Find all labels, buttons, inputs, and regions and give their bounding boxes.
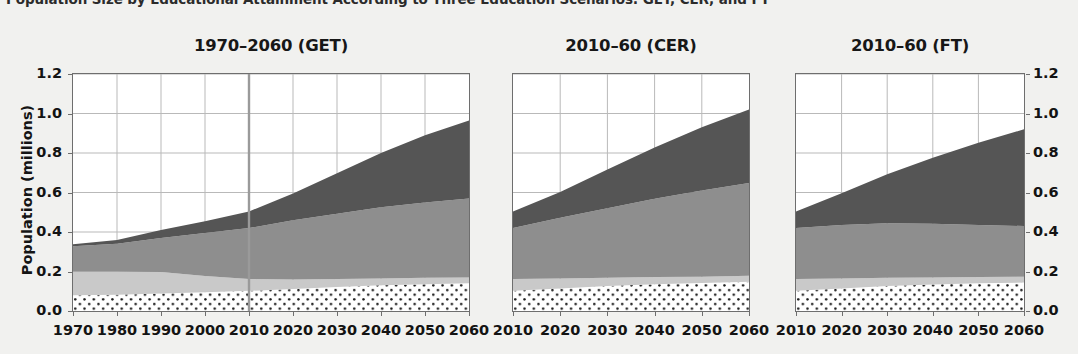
y-tickmark-right	[1026, 232, 1030, 233]
plot-panel-ft	[795, 73, 1025, 312]
x-tickmark	[293, 312, 294, 316]
x-tick-ft-2010: 2010	[774, 322, 818, 338]
y-tick-right-0.6: 0.6	[1033, 184, 1075, 200]
x-tick-ft-2020: 2020	[820, 322, 864, 338]
x-tick-get-2060: 2060	[447, 322, 491, 338]
y-tick-left-0.4: 0.4	[20, 223, 62, 239]
x-tick-ft-2060: 2060	[1002, 322, 1046, 338]
plot-panel-get	[72, 73, 470, 312]
x-tickmark	[702, 312, 703, 316]
y-tickmark-left	[68, 114, 72, 115]
x-tickmark	[749, 312, 750, 316]
x-tickmark	[205, 312, 206, 316]
y-tick-right-0.8: 0.8	[1033, 144, 1075, 160]
y-tickmark-right	[1026, 153, 1030, 154]
x-tick-ft-2030: 2030	[865, 322, 909, 338]
y-tickmark-left	[68, 193, 72, 194]
y-tickmark-left	[68, 74, 72, 75]
y-tickmark-left	[68, 311, 72, 312]
x-tickmark	[655, 312, 656, 316]
plot-panel-cer	[512, 73, 750, 312]
x-tick-ft-2050: 2050	[956, 322, 1000, 338]
y-tick-left-0.0: 0.0	[20, 302, 62, 318]
figure-title: Population Size by Educational Attainmen…	[6, 0, 770, 7]
y-tick-left-0.2: 0.2	[20, 263, 62, 279]
x-tickmark	[117, 312, 118, 316]
x-tickmark	[337, 312, 338, 316]
x-tickmark	[425, 312, 426, 316]
x-tick-get-2030: 2030	[315, 322, 359, 338]
x-tickmark	[842, 312, 843, 316]
x-tick-get-2010: 2010	[227, 322, 271, 338]
x-tick-get-1980: 1980	[95, 322, 139, 338]
y-tick-left-0.8: 0.8	[20, 144, 62, 160]
x-tick-cer-2040: 2040	[633, 322, 677, 338]
x-tick-get-1990: 1990	[139, 322, 183, 338]
plot-area-cer	[513, 74, 749, 311]
x-tick-cer-2010: 2010	[491, 322, 535, 338]
x-tick-cer-2050: 2050	[680, 322, 724, 338]
x-tickmark	[381, 312, 382, 316]
x-tickmark	[1024, 312, 1025, 316]
x-tick-get-2050: 2050	[403, 322, 447, 338]
x-tick-get-2020: 2020	[271, 322, 315, 338]
y-tick-right-0.4: 0.4	[1033, 223, 1075, 239]
y-tickmark-right	[1026, 114, 1030, 115]
y-tick-left-0.6: 0.6	[20, 184, 62, 200]
x-tickmark	[796, 312, 797, 316]
panel-title-cer: 2010–60 (CER)	[512, 36, 750, 55]
y-tickmark-right	[1026, 272, 1030, 273]
panel-title-ft: 2010–60 (FT)	[795, 36, 1025, 55]
x-tick-ft-2040: 2040	[911, 322, 955, 338]
area-series-upper-secondary	[796, 223, 1024, 279]
x-tickmark	[607, 312, 608, 316]
x-tickmark	[249, 312, 250, 316]
y-tickmark-left	[68, 272, 72, 273]
y-tick-right-0.2: 0.2	[1033, 263, 1075, 279]
y-tickmark-left	[68, 153, 72, 154]
x-tick-cer-2030: 2030	[585, 322, 629, 338]
x-tickmark	[978, 312, 979, 316]
x-tickmark	[161, 312, 162, 316]
plot-area-ft	[796, 74, 1024, 311]
x-tickmark	[560, 312, 561, 316]
x-tickmark	[933, 312, 934, 316]
y-tick-left-1.0: 1.0	[20, 105, 62, 121]
x-tick-get-1970: 1970	[51, 322, 95, 338]
panel-title-get: 1970–2060 (GET)	[72, 36, 470, 55]
x-tick-get-2040: 2040	[359, 322, 403, 338]
plot-area-get	[73, 74, 469, 311]
x-tickmark	[513, 312, 514, 316]
x-tick-cer-2020: 2020	[538, 322, 582, 338]
y-tickmark-right	[1026, 311, 1030, 312]
y-tick-left-1.2: 1.2	[20, 65, 62, 81]
y-tickmark-right	[1026, 74, 1030, 75]
x-tickmark	[73, 312, 74, 316]
x-tickmark	[887, 312, 888, 316]
x-tick-cer-2060: 2060	[727, 322, 771, 338]
y-tick-right-1.0: 1.0	[1033, 105, 1075, 121]
y-tick-right-0.0: 0.0	[1033, 302, 1075, 318]
x-tickmark	[469, 312, 470, 316]
x-tick-get-2000: 2000	[183, 322, 227, 338]
y-tickmark-left	[68, 232, 72, 233]
area-series-post-secondary	[796, 129, 1024, 228]
y-tickmark-right	[1026, 193, 1030, 194]
y-tick-right-1.2: 1.2	[1033, 65, 1075, 81]
